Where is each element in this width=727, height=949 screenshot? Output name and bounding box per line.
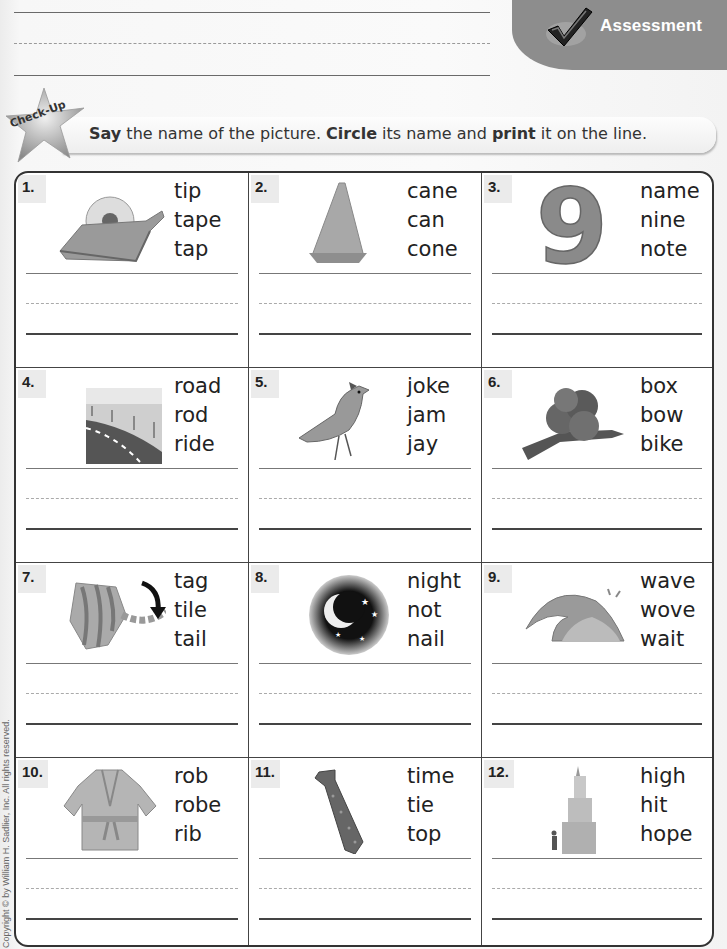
moon-night-sky-icon: ★ ★ ★ ★	[279, 571, 399, 659]
item-number: 5.	[251, 370, 279, 398]
answer-line-top[interactable]	[259, 663, 471, 664]
word-choice[interactable]: cone	[407, 235, 458, 264]
answer-line-top[interactable]	[492, 468, 702, 469]
answer-line-top[interactable]	[492, 858, 702, 859]
worksheet-page: Assessment Say the name of the picture. …	[0, 0, 727, 949]
word-choice[interactable]: tag	[174, 567, 208, 596]
word-choice[interactable]: night	[407, 567, 461, 596]
number-nine-icon: 9	[512, 181, 632, 269]
word-choices: box bow bike	[640, 372, 684, 459]
word-choice[interactable]: nail	[407, 625, 461, 654]
word-choice[interactable]: jam	[407, 401, 450, 430]
word-choice[interactable]: bike	[640, 430, 684, 459]
word-choice[interactable]: nine	[640, 206, 700, 235]
answer-line-top[interactable]	[492, 273, 702, 274]
writing-line-bottom[interactable]	[14, 75, 490, 76]
word-choice[interactable]: joke	[407, 372, 450, 401]
copyright-notice: Copyright © by William H. Sadlier, Inc. …	[1, 719, 11, 948]
word-choices: rob robe rib	[174, 762, 221, 849]
word-choice[interactable]: box	[640, 372, 684, 401]
word-choice[interactable]: tail	[174, 625, 208, 654]
previous-writing-lines	[14, 0, 490, 80]
item-number: 7.	[18, 565, 46, 593]
word-choice[interactable]: wave	[640, 567, 695, 596]
answer-line-mid	[259, 498, 471, 499]
svg-text:★: ★	[361, 597, 369, 607]
word-choice[interactable]: time	[407, 762, 454, 791]
word-choice[interactable]: tape	[174, 206, 221, 235]
item-number: 1.	[18, 175, 46, 203]
item-number: 6.	[484, 370, 512, 398]
ribbon-bow-icon	[512, 376, 632, 464]
exercise-item-8: 8. ★ ★ ★ ★ night not nail	[249, 563, 482, 758]
traffic-cone-icon	[279, 181, 399, 269]
instruction-part: the name of the picture.	[121, 124, 326, 143]
answer-line-mid	[492, 888, 702, 889]
writing-line-top[interactable]	[14, 12, 490, 13]
word-choice[interactable]: ride	[174, 430, 221, 459]
item-number: 9.	[484, 565, 512, 593]
word-choice[interactable]: high	[640, 762, 692, 791]
word-choices: joke jam jay	[407, 372, 450, 459]
answer-line-bottom[interactable]	[492, 918, 702, 920]
answer-line-mid	[259, 888, 471, 889]
answer-line-bottom[interactable]	[492, 333, 702, 335]
item-number: 4.	[18, 370, 46, 398]
answer-line-top[interactable]	[26, 663, 238, 664]
ocean-wave-icon	[512, 571, 632, 659]
svg-text:★: ★	[335, 631, 341, 639]
word-choice[interactable]: jay	[407, 430, 450, 459]
answer-line-bottom[interactable]	[492, 723, 702, 725]
answer-line-bottom[interactable]	[26, 723, 238, 725]
word-choice[interactable]: not	[407, 596, 461, 625]
answer-line-bottom[interactable]	[259, 528, 471, 530]
word-choice[interactable]: bow	[640, 401, 684, 430]
answer-line-mid	[26, 888, 238, 889]
answer-line-top[interactable]	[492, 663, 702, 664]
instruction-text: Say the name of the picture. Circle its …	[89, 124, 647, 143]
svg-text:★: ★	[371, 610, 378, 619]
answer-line-bottom[interactable]	[26, 333, 238, 335]
exercise-item-2: 2. cane can cone	[249, 173, 482, 368]
word-choice[interactable]: road	[174, 372, 221, 401]
answer-line-bottom[interactable]	[259, 723, 471, 725]
answer-line-bottom[interactable]	[26, 528, 238, 530]
answer-line-top[interactable]	[26, 468, 238, 469]
answer-line-top[interactable]	[259, 273, 471, 274]
word-choice[interactable]: note	[640, 235, 700, 264]
instruction-say: Say	[89, 124, 121, 143]
cat-tail-icon	[46, 571, 166, 659]
tape-dispenser-icon	[46, 181, 166, 269]
exercise-item-5: 5. joke jam jay	[249, 368, 482, 563]
word-choice[interactable]: rod	[174, 401, 221, 430]
word-choices: high hit hope	[640, 762, 692, 849]
answer-line-bottom[interactable]	[259, 918, 471, 920]
answer-line-top[interactable]	[26, 273, 238, 274]
word-choice[interactable]: robe	[174, 791, 221, 820]
word-choice[interactable]: wait	[640, 625, 695, 654]
word-choice[interactable]: wove	[640, 596, 695, 625]
answer-line-mid	[259, 693, 471, 694]
answer-line-top[interactable]	[26, 858, 238, 859]
word-choice[interactable]: hope	[640, 820, 692, 849]
exercise-item-6: 6. box bow bike	[482, 368, 712, 563]
word-choice[interactable]: tile	[174, 596, 208, 625]
word-choice[interactable]: can	[407, 206, 458, 235]
answer-line-bottom[interactable]	[492, 528, 702, 530]
word-choice[interactable]: cane	[407, 177, 458, 206]
word-choice[interactable]: tip	[174, 177, 221, 206]
answer-line-bottom[interactable]	[26, 918, 238, 920]
answer-line-bottom[interactable]	[259, 333, 471, 335]
word-choice[interactable]: rob	[174, 762, 221, 791]
word-choice[interactable]: tap	[174, 235, 221, 264]
word-choice[interactable]: rib	[174, 820, 221, 849]
word-choice[interactable]: top	[407, 820, 454, 849]
answer-line-top[interactable]	[259, 858, 471, 859]
exercise-grid: 1. tip tape tap 2. can	[14, 171, 714, 947]
answer-line-top[interactable]	[259, 468, 471, 469]
word-choice[interactable]: hit	[640, 791, 692, 820]
word-choice[interactable]: tie	[407, 791, 454, 820]
word-choices: wave wove wait	[640, 567, 695, 654]
item-number: 10.	[18, 760, 48, 788]
word-choice[interactable]: name	[640, 177, 700, 206]
